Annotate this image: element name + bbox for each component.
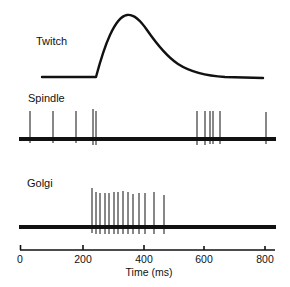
x-tick-0: 0	[17, 253, 23, 265]
x-tick-800: 800	[256, 253, 274, 265]
x-tick-200: 200	[74, 253, 92, 265]
twitch-label: Twitch	[36, 35, 67, 47]
x-axis-title: Time (ms)	[126, 266, 173, 278]
x-tick-400: 400	[135, 253, 153, 265]
golgi-label: Golgi	[27, 177, 53, 189]
spindle-baseline	[19, 137, 276, 141]
golgi-baseline	[19, 225, 276, 229]
spindle-label: Spindle	[28, 92, 65, 104]
twitch-trace	[42, 15, 263, 78]
x-tick-600: 600	[195, 253, 213, 265]
